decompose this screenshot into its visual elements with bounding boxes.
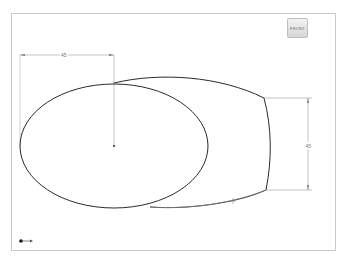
profile-bottom-curve[interactable] xyxy=(150,190,266,208)
arrowhead-icon xyxy=(307,185,309,190)
horizontal-dimension-label[interactable]: 45 xyxy=(61,52,67,58)
vertical-dimension[interactable]: 45 xyxy=(264,98,312,190)
profile-curve[interactable] xyxy=(114,77,270,208)
sketch-canvas[interactable]: 45 45 xyxy=(0,0,342,256)
ellipse-center-point[interactable] xyxy=(113,145,115,147)
spline-point-icon[interactable] xyxy=(230,198,236,204)
arrowhead-icon xyxy=(307,98,309,103)
horizontal-dimension[interactable]: 45 xyxy=(20,52,114,146)
axis-triad-icon xyxy=(19,232,33,243)
arrowhead-icon xyxy=(20,54,25,56)
arrowhead-icon xyxy=(109,54,114,56)
view-cube-front-button[interactable]: FRONT xyxy=(287,18,308,38)
vertical-dimension-label[interactable]: 45 xyxy=(306,143,312,149)
